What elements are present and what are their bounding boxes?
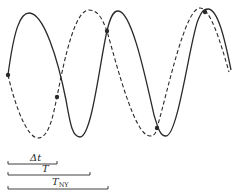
aliasing-diagram: ΔtTTNY [0, 0, 241, 195]
sample-point [155, 126, 159, 130]
interval-label: TNY [52, 176, 69, 189]
interval-bars: ΔtTTNY [8, 152, 108, 189]
sample-point [6, 73, 10, 77]
interval-0: Δt [8, 152, 57, 164]
sample-point [105, 29, 109, 33]
interval-label: T [42, 163, 50, 174]
sample-point [55, 95, 59, 99]
interval-label: Δt [29, 152, 42, 163]
sample-point [203, 10, 207, 14]
interval-bar [8, 172, 90, 175]
interval-1: T [8, 163, 90, 175]
interval-2: TNY [8, 176, 108, 189]
